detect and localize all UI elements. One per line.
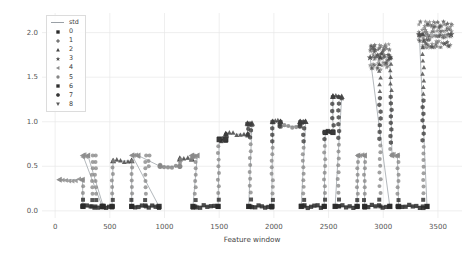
data-marker [143,166,147,170]
data-marker [111,159,115,163]
data-marker [143,198,147,202]
data-marker [378,157,382,161]
data-marker [389,114,393,119]
data-marker [111,204,115,208]
data-marker [216,204,220,208]
data-marker [198,206,202,210]
x-axis-label: Feature window [42,235,462,244]
data-marker [379,191,383,195]
data-marker [217,198,221,202]
data-marker [336,177,340,181]
data-marker [110,185,114,189]
data-marker [344,205,348,209]
legend-item-5[interactable]: 5 [49,73,82,82]
data-marker [421,198,425,202]
legend-item-1[interactable]: 1 [49,36,82,45]
data-marker [290,126,294,130]
legend-label: 2 [66,45,73,54]
legend-item-6[interactable]: 6 [49,82,82,91]
legend-item-std[interactable]: std [49,18,82,27]
data-marker [302,139,306,144]
data-marker [378,150,382,154]
data-marker [110,191,114,195]
data-series-std [42,13,462,218]
data-marker [323,144,327,148]
legend-plus-icon [49,36,66,45]
legend-item-3[interactable]: 3 [49,54,82,63]
data-marker [93,204,97,208]
data-marker [421,158,425,162]
legend-label: 6 [66,82,73,91]
data-marker [301,152,305,156]
data-marker [129,198,133,202]
data-marker [194,185,198,189]
data-marker [147,164,151,168]
data-marker [362,173,366,177]
data-marker [322,151,326,155]
data-marker [336,136,340,141]
data-marker [301,165,305,169]
data-marker [332,123,336,128]
x-tick-label: 0 [53,223,57,231]
data-marker [323,184,327,188]
data-marker [270,132,274,137]
data-marker [270,172,274,176]
data-marker [216,164,220,168]
y-tick-label: 0.5 [12,162,38,170]
data-marker [130,165,134,169]
data-marker [337,129,341,134]
data-marker [249,142,253,146]
legend-label: 0 [66,27,73,36]
std-line [60,34,452,206]
data-marker [377,171,381,175]
data-marker [322,137,326,142]
legend-triangle-icon [49,45,66,54]
x-tick-label: 500 [103,223,116,231]
data-marker [286,124,290,128]
data-marker [397,179,401,183]
data-marker [216,178,220,182]
data-marker [363,192,367,196]
legend-item-4[interactable]: 4 [49,63,82,72]
data-marker [362,198,366,202]
legend-item-2[interactable]: 2 [49,45,82,54]
data-marker [166,165,170,169]
x-tick-label: 3000 [374,223,392,231]
data-marker [158,164,163,169]
data-marker [270,152,274,156]
data-marker [422,185,426,189]
data-marker [205,205,209,209]
legend-item-0[interactable]: 0 [49,27,82,36]
data-marker [248,184,252,188]
data-marker [378,96,382,101]
legend-label: 8 [66,100,73,109]
data-marker [323,164,327,168]
data-marker [94,179,98,183]
data-marker [323,198,327,202]
data-marker [101,204,106,209]
data-marker [421,151,425,155]
legend-item-8[interactable]: 8 [49,100,82,109]
plot-area [42,13,462,218]
data-marker [270,165,274,169]
data-marker [217,171,221,175]
figure: STD of vibration Norm, mm/s^2 0.00.51.01… [0,0,470,254]
data-marker [156,204,161,209]
legend-item-7[interactable]: 7 [49,91,82,100]
data-marker [94,160,98,164]
data-marker [323,204,327,208]
data-marker [378,123,382,128]
data-marker [421,111,425,116]
data-marker [378,144,382,148]
data-marker [94,154,98,158]
data-marker [389,121,393,126]
data-marker [355,198,359,202]
data-marker [436,20,441,24]
data-marker [330,116,334,121]
data-marker [90,204,94,208]
data-marker [130,204,134,208]
data-marker [396,160,400,164]
data-marker [144,204,148,208]
data-marker [209,204,213,208]
data-marker [390,107,394,112]
